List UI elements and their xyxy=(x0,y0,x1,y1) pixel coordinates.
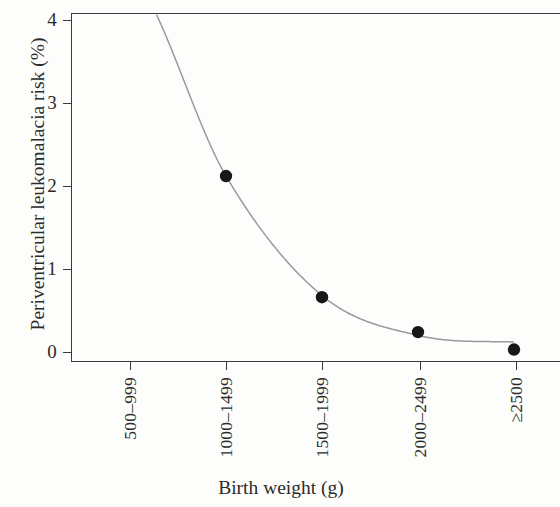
data-point xyxy=(508,343,520,355)
data-point xyxy=(316,291,328,303)
data-point xyxy=(220,170,232,182)
data-points-layer xyxy=(0,0,560,507)
chart-figure: 4 3 2 1 0 500–999 1000–1499 1500–1999 20… xyxy=(0,0,560,507)
data-point xyxy=(412,326,424,338)
